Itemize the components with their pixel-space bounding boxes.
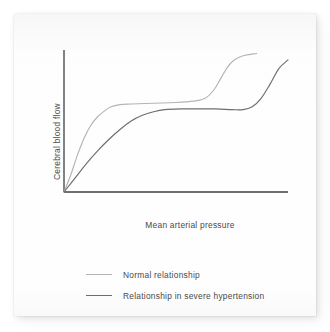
legend-swatch-normal (86, 274, 112, 275)
chart-axes (64, 50, 288, 192)
chart-series-line-1 (64, 60, 288, 192)
chart-series-line-0 (64, 54, 257, 192)
legend-item-hypertension: Relationship in severe hypertension (86, 285, 316, 306)
legend-label-normal: Normal relationship (123, 270, 200, 280)
chart-legend: Normal relationship Relationship in seve… (86, 264, 316, 306)
x-axis-title: Mean arterial pressure (78, 220, 302, 230)
legend-swatch-hypertension (86, 295, 112, 296)
y-axis-title: Cerebral blood flow (52, 103, 62, 180)
chart-series-group (64, 54, 288, 192)
legend-item-normal: Normal relationship (86, 264, 316, 285)
legend-label-hypertension: Relationship in severe hypertension (123, 291, 264, 301)
figure-card: Cerebral blood flow Mean arterial pressu… (14, 14, 316, 316)
figure-root: Cerebral blood flow Mean arterial pressu… (0, 0, 330, 332)
